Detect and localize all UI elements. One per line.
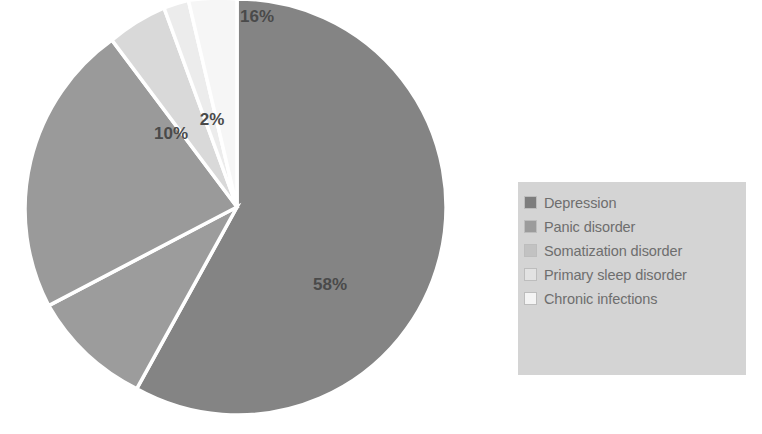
chart-legend: Depression Panic disorder Somatization d… <box>518 182 746 375</box>
legend-label-panic-disorder: Panic disorder <box>544 219 635 235</box>
legend-label-somatization-disorder: Somatization disorder <box>544 243 682 259</box>
legend-swatch-chronic-infections <box>524 292 537 305</box>
legend-swatch-somatization-disorder <box>524 244 537 257</box>
pie-label-2: 2% <box>200 110 225 129</box>
pie-label-10: 10% <box>154 124 188 143</box>
legend-label-chronic-infections: Chronic infections <box>544 291 657 307</box>
legend-swatch-panic-disorder <box>524 220 537 233</box>
pie-label-16: 16% <box>240 7 274 26</box>
legend-swatch-primary-sleep-disorder <box>524 268 537 281</box>
legend-swatch-depression <box>524 196 537 209</box>
pie-chart-figure: 58% 10% 2% 16% Depression Panic disorder… <box>0 0 762 434</box>
legend-item-primary-sleep-disorder[interactable]: Primary sleep disorder <box>524 263 746 286</box>
legend-label-depression: Depression <box>544 195 616 211</box>
legend-item-depression[interactable]: Depression <box>524 191 746 214</box>
legend-item-somatization-disorder[interactable]: Somatization disorder <box>524 239 746 262</box>
pie-svg: 58% 10% 2% 16% <box>0 0 500 434</box>
pie-chart-plot-area: 58% 10% 2% 16% <box>0 0 500 434</box>
legend-item-chronic-infections[interactable]: Chronic infections <box>524 287 746 310</box>
legend-item-panic-disorder[interactable]: Panic disorder <box>524 215 746 238</box>
legend-label-primary-sleep-disorder: Primary sleep disorder <box>544 267 687 283</box>
pie-label-58: 58% <box>313 275 347 294</box>
